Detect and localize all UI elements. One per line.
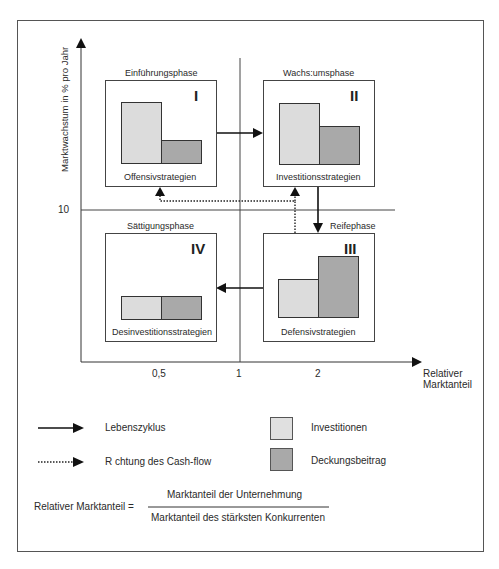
x-tick-0-5: 0,5 [152,368,166,379]
phase-iii-deckungsbeitrag-bar [318,256,359,318]
phase-i-name: Einführungsphase [125,68,198,78]
phase-i-numeral: I [194,87,198,104]
phase-iv-investitionen-bar [121,296,162,320]
phase-i-deckungsbeitrag-bar [161,140,202,164]
phase-i-strategy: Offensivstrategien [124,172,196,182]
phase-box-ii: II Investitionsstrategien [263,80,375,187]
phase-box-iii: III Defensivstrategien [263,233,375,342]
legend-investitionen: Investitionen [311,422,367,433]
arrow-i-to-ii-icon [253,128,263,138]
x-tick-1: 1 [236,368,242,379]
phase-box-i: I Offensivstrategien [105,80,217,187]
y-axis-arrowhead-icon [76,38,86,48]
phase-iii-strategy: Defensivstrategien [281,327,356,337]
phase-iii-numeral: III [344,240,357,257]
x-axis-arrowhead-icon [412,357,422,367]
legend-dotted-arrow-icon [73,457,84,467]
phase-iv-numeral: IV [191,240,205,257]
y-tick-10: 10 [58,204,69,215]
x-axis-title-line1: Relativer [423,368,462,379]
formula-numerator: Marktanteil der Unternehmung [167,489,302,500]
phase-iii-name: Reifephase [330,221,376,231]
formula-lhs: Relativer Marktanteil = [34,501,134,512]
cashflow-arrow-to-i-icon [155,187,165,196]
phase-box-iv: IV Desinvestitionsstrategien [105,233,217,342]
phase-i-investitionen-bar [121,102,162,164]
phase-ii-investitionen-bar [279,103,320,165]
legend-deckungsbeitrag-swatch [270,448,293,471]
legend-deckungsbeitrag: Deckungsbeitrag [311,455,386,466]
legend-solid-arrow-icon [73,423,84,433]
cashflow-arrow-to-ii-icon [290,187,300,196]
x-axis-title-line2: Marktanteil [423,379,472,390]
legend-investitionen-swatch [270,417,293,440]
legend-lebenszyklus: Lebenszyklus [105,422,166,433]
phase-ii-deckungsbeitrag-bar [319,126,360,165]
phase-iv-strategy: Desinvestitionsstrategien [112,327,212,337]
diagram-lines [0,0,499,569]
phase-iv-deckungsbeitrag-bar [161,296,202,320]
phase-ii-strategy: Investitionsstrategien [276,172,361,182]
formula-denominator: Marktanteil des stärksten Konkurrenten [151,512,325,523]
phase-ii-numeral: II [350,87,358,104]
phase-iv-name: Sättigungsphase [127,221,194,231]
phase-ii-name: Wachs:umsphase [283,68,354,78]
arrow-iii-to-iv-icon [216,283,226,293]
x-tick-2: 2 [315,368,321,379]
arrow-ii-to-iii-icon [313,223,323,233]
phase-iii-investitionen-bar [278,279,319,318]
y-axis-title: Marktwachstum in % pro Jahr [59,47,70,172]
legend-cashflow: R chtung des Cash-flow [105,456,211,467]
